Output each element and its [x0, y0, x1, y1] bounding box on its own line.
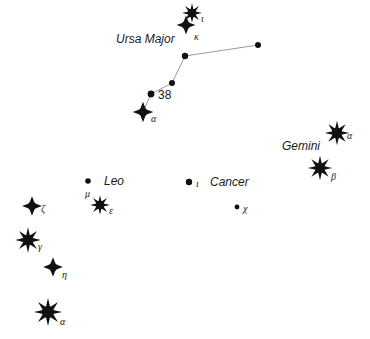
star-disc	[186, 179, 192, 185]
star-disc	[188, 9, 196, 17]
star-disc	[139, 108, 148, 117]
star-marker	[235, 205, 240, 210]
star-disc	[169, 80, 175, 86]
star-marker	[255, 42, 261, 48]
star-marker	[325, 121, 349, 145]
star-disc	[182, 53, 188, 59]
star-label-gem-alpha: α	[347, 131, 352, 141]
star-marker	[182, 53, 188, 59]
star-label-cnc-chi: χ	[243, 204, 247, 214]
star-disc	[148, 91, 155, 98]
star-label-uma-kappa: κ	[194, 32, 199, 42]
star-disc	[49, 263, 57, 271]
star-marker	[90, 195, 110, 215]
constellation-label-gemini: Gemini	[282, 140, 320, 152]
star-label-left-alpha: α	[60, 317, 65, 327]
star-marker	[34, 298, 62, 326]
star-disc	[182, 21, 190, 29]
star-marker	[85, 178, 91, 184]
star-marker	[186, 179, 192, 185]
star-chart: ικ38ααβμειχζγηαUrsa MajorGeminiLeoCancer	[0, 0, 370, 339]
star-marker	[43, 257, 63, 277]
star-label-left-zeta: ζ	[41, 204, 45, 214]
star-label-cnc-iota: ι	[196, 179, 199, 189]
star-disc	[315, 163, 325, 173]
star-label-left-gamma: γ	[38, 242, 42, 252]
star-disc	[85, 178, 91, 184]
star-marker	[169, 80, 175, 86]
star-label-left-eta: η	[62, 270, 67, 280]
star-label-leo-epsilon: ε	[109, 206, 113, 216]
constellation-label-ursa-major: Ursa Major	[116, 33, 175, 45]
star-disc	[42, 306, 54, 318]
star-chart-canvas	[0, 0, 370, 339]
star-disc	[255, 42, 261, 48]
star-label-leo-mu: μ	[85, 189, 90, 199]
star-disc	[96, 201, 104, 209]
star-disc	[235, 205, 240, 210]
star-marker	[15, 227, 40, 252]
star-marker	[308, 156, 332, 180]
constellation-label-cancer: Cancer	[210, 176, 249, 188]
star-label-gem-beta: β	[331, 172, 336, 182]
star-label-uma-iota: ι	[201, 14, 204, 24]
star-disc	[332, 128, 342, 138]
star-disc	[28, 202, 36, 210]
constellation-label-leo: Leo	[104, 175, 124, 187]
star-label-uma-38: 38	[158, 89, 171, 101]
star-marker	[148, 91, 155, 98]
star-marker	[22, 196, 42, 216]
star-disc	[23, 235, 34, 246]
star-label-uma-alpha: α	[151, 114, 156, 124]
